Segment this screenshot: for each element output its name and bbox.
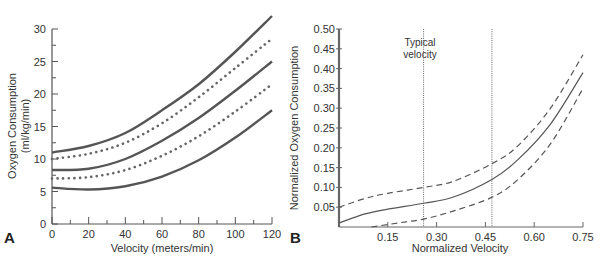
panel-a-y-tick-label: 0 [40,218,46,230]
panel-a-x-tick-label: 0 [49,228,55,240]
panel-a-y-tick-label: 10 [34,153,46,165]
panel-a-chart: A Oxygen Consumption (ml/kg/min) Velocit… [4,16,281,254]
panel-b-y-axis-title: Normalized Oxygen Consumption [288,46,300,210]
panel-a-y-tick-label: 20 [34,88,46,100]
panel-a-y-tick-label: 15 [34,121,46,133]
panel-b-y-tick-label: 0.30 [314,102,335,114]
panel-a-y-axis-title-line2: (ml/kg/min) [19,99,31,153]
panel-b-x-tick-label: 0.75 [572,231,593,243]
panel-b-y-tick-label: 0.25 [314,122,335,134]
panel-a-series-upper-solid [52,16,272,153]
panel-b-y-tick-label: 0.40 [314,63,335,75]
panel-b-y-tick-label: 0.35 [314,82,335,94]
typical-velocity-label-line2: velocity [403,49,436,60]
panel-b-y-tick-label: 0.20 [314,142,335,154]
panel-b-x-tick-label: 0.15 [377,231,398,243]
panel-a-x-tick-label: 120 [263,228,281,240]
panel-a-y-tick-label: 5 [40,186,46,198]
panel-a-x-axis-title: Velocity (meters/min) [111,242,214,254]
panel-b-y-tick-label: 0.05 [314,201,335,213]
panel-a-series-lower-dotted [52,84,272,178]
panel-b-series-mean [339,73,583,223]
figure: A Oxygen Consumption (ml/kg/min) Velocit… [0,0,601,263]
panel-a-x-tick-label: 40 [119,228,131,240]
panel-b-y-tick-label: 0.45 [314,43,335,55]
panel-a-x-tick-label: 100 [226,228,244,240]
panel-a-x-tick-label: 20 [83,228,95,240]
panel-b-y-tick-label: 0.15 [314,162,335,174]
panel-a-y-tick-label: 25 [34,56,46,68]
panel-a-y-axis-title-line1: Oxygen Consumption [6,73,18,179]
panel-b-series-upper-bound [339,55,583,207]
panel-b-y-tick-label: 0.10 [314,181,335,193]
panel-a-label: A [4,229,15,246]
panel-a-y-tick-label: 30 [34,23,46,35]
panel-b-x-tick-label: 0.45 [475,231,496,243]
panel-b-y-tick-label: 0.50 [314,23,335,35]
panel-b-label: B [290,229,301,246]
panel-b-x-tick-label: 0.60 [523,231,544,243]
typical-velocity-label-line1: Typical [404,37,435,48]
panel-b-x-tick-label: 0.30 [426,231,447,243]
panel-a-x-tick-label: 80 [193,228,205,240]
panel-b-x-axis-title: Normalized Velocity [412,242,509,254]
panel-b-chart: B Normalized Oxygen Consumption Normaliz… [288,23,594,254]
panel-a-x-tick-label: 60 [156,228,168,240]
